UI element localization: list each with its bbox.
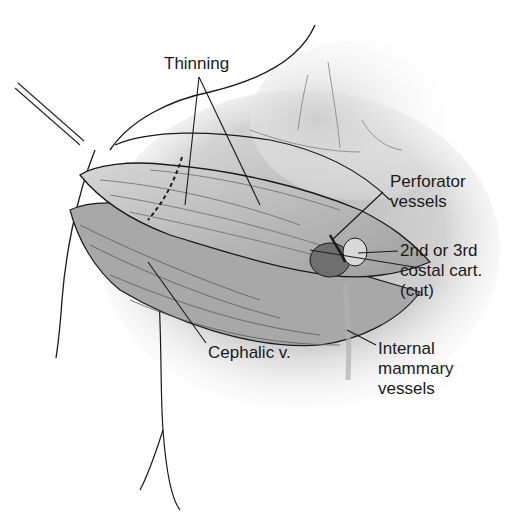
label-costal-cartilage-2: costal cart.	[400, 261, 482, 281]
forceps-icon	[15, 83, 84, 145]
label-perforator-vessels-1: Perforator	[390, 172, 466, 192]
label-thinning: Thinning	[164, 54, 229, 74]
label-cephalic-vein: Cephalic v.	[208, 343, 291, 363]
torso-branch	[140, 430, 163, 490]
label-internal-mammary-1: Internal	[378, 339, 435, 359]
label-costal-cartilage-3: (cut)	[400, 281, 434, 301]
figure-canvas: Thinning Perforator vessels 2nd or 3rd c…	[0, 0, 515, 526]
label-internal-mammary-3: vessels	[378, 379, 435, 399]
label-perforator-vessels-2: vessels	[390, 192, 447, 212]
label-internal-mammary-2: mammary	[378, 359, 454, 379]
label-costal-cartilage-1: 2nd or 3rd	[400, 241, 478, 261]
